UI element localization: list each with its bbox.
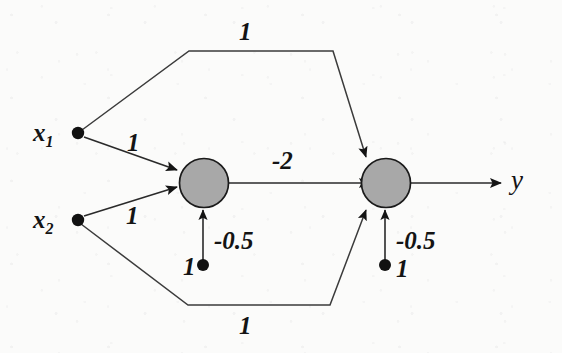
weight-label-x2-to-hidden: 1 — [126, 203, 139, 228]
bias-value-label-hidden: 1 — [183, 254, 196, 279]
output-label-y: y — [511, 167, 523, 194]
input-label-x1: x1 — [33, 120, 54, 150]
edge-x2-to-output — [81, 210, 366, 305]
edge-x1-to-output — [82, 51, 366, 157]
output-neuron — [362, 159, 411, 208]
weight-label-x2-to-output: 1 — [239, 313, 252, 338]
input-label-x1-base: x — [33, 119, 46, 146]
weight-label-x1-to-hidden: 1 — [127, 130, 140, 155]
input-node-x2 — [72, 214, 84, 226]
weight-label-hidden-to-output: -2 — [272, 148, 293, 173]
input-label-x2: x2 — [33, 207, 54, 237]
bias-weight-label-output: -0.5 — [396, 228, 436, 253]
bias-node-output — [379, 259, 391, 271]
input-label-x1-subscript: 1 — [46, 133, 54, 150]
neural-network-diagram — [0, 0, 562, 353]
hidden-neuron — [180, 159, 229, 208]
input-label-x2-base: x — [33, 206, 46, 233]
bias-value-label-output: 1 — [396, 256, 409, 281]
bias-node-hidden — [197, 259, 209, 271]
weight-label-x1-to-output: 1 — [239, 19, 252, 44]
bias-weight-label-hidden: -0.5 — [214, 228, 254, 253]
input-node-x1 — [72, 127, 84, 139]
figure-canvas: x1 x2 1 1 1 1 -2 -0.5 -0.5 1 1 y — [0, 0, 562, 353]
input-label-x2-subscript: 2 — [46, 220, 54, 237]
